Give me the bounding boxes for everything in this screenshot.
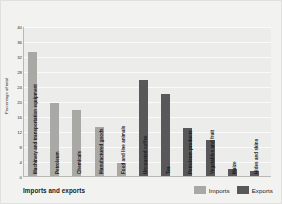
bar-slot: Petroleum [49, 27, 71, 176]
bar-slot: Vegetables and fruit [205, 27, 227, 176]
y-axis-tick: 32 [9, 54, 22, 61]
bar-category-label: Petroleum [55, 151, 60, 174]
y-axis-tick: 8 [9, 144, 22, 151]
y-axis-tick: 12 [9, 129, 22, 136]
bar-chart-figure: Percentage of total 4036322824201612840 … [0, 0, 282, 204]
x-axis-title: Imports and exports [23, 187, 85, 194]
bar-category-label: Food and live animals [121, 126, 126, 174]
bar-slot: Chemicals [71, 27, 93, 176]
legend-item-exports: Exports [237, 186, 273, 194]
bar-category-label: Tea [166, 166, 171, 174]
bar-category-label: Uncoasted coffee [143, 135, 148, 174]
bar-slot: Manufactured goods [94, 27, 116, 176]
bar-slot: Petroleum products [182, 27, 204, 176]
legend-label-exports: Exports [252, 187, 273, 194]
legend-swatch-exports [237, 186, 249, 194]
y-axis-tick: 24 [9, 84, 22, 91]
bar-slot: Uncoasted coffee [138, 27, 160, 176]
bar-slot: Hides and skins [249, 27, 271, 176]
plot-area: Machinery and transportation equipmentPe… [23, 27, 271, 177]
y-axis-tick: 0 [9, 174, 22, 181]
y-axis-tick: 40 [9, 24, 22, 31]
bar-category-label: Machinery and transportation equipment [33, 84, 38, 174]
legend-swatch-imports [194, 186, 206, 194]
bar-category-label: Chemicals [77, 151, 82, 174]
bar-slot: Maize [227, 27, 249, 176]
bar-slot: Machinery and transportation equipment [27, 27, 49, 176]
y-axis-tick: 16 [9, 114, 22, 121]
bar-category-label: Vegetables and fruit [210, 130, 215, 174]
bar-category-label: Petroleum products [188, 130, 193, 174]
y-axis-tick: 4 [9, 159, 22, 166]
bar-category-label: Hides and skins [254, 139, 259, 174]
bar-slot: Food and live animals [116, 27, 138, 176]
y-axis-tick-labels: 4036322824201612840 [9, 27, 22, 177]
bar-slot: Tea [160, 27, 182, 176]
legend-item-imports: Imports [194, 186, 230, 194]
y-axis-tick: 36 [9, 39, 22, 46]
y-axis-tick: 20 [9, 99, 22, 106]
y-axis-tick: 28 [9, 69, 22, 76]
bar-category-label: Manufactured goods [99, 128, 104, 174]
legend-label-imports: Imports [209, 187, 230, 194]
bar-group: Machinery and transportation equipmentPe… [24, 27, 271, 176]
bar-exports[interactable] [161, 94, 170, 177]
bar-category-label: Maize [232, 161, 237, 174]
legend: Imports Exports [194, 186, 273, 194]
